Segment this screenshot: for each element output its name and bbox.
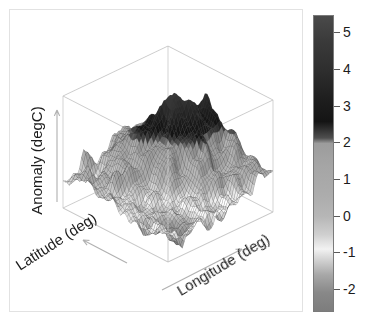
colorbar-tick-mark: [334, 252, 340, 253]
colorbar: 543210-1-2: [313, 15, 374, 313]
colorbar-tick-label: 2: [343, 134, 351, 151]
surface-plot-canvas: [9, 9, 303, 312]
colorbar-tick-label: 1: [343, 171, 351, 188]
colorbar-tick-mark: [334, 142, 340, 143]
figure-root: Anomaly (degC) Latitude (deg) Longitude …: [0, 0, 374, 329]
axis-label-anomaly: Anomaly (degC): [28, 101, 45, 221]
colorbar-tick-label: 3: [343, 98, 351, 115]
colorbar-tick-mark: [334, 289, 340, 290]
colorbar-tick-label: 5: [343, 24, 351, 41]
colorbar-tick-label: -2: [343, 281, 355, 298]
colorbar-tick-label: 0: [343, 208, 351, 225]
colorbar-tick-label: 4: [343, 61, 351, 78]
colorbar-gradient-strip: [313, 15, 334, 312]
colorbar-tick-mark: [334, 216, 340, 217]
colorbar-tick-mark: [334, 179, 340, 180]
colorbar-tick-mark: [334, 106, 340, 107]
colorbar-tick-mark: [334, 69, 340, 70]
colorbar-tick-label: -1: [343, 244, 355, 261]
colorbar-tick-mark: [334, 32, 340, 33]
colorbar-tick-axis: 543210-1-2: [334, 15, 374, 312]
